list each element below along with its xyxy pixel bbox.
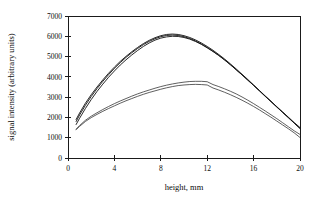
x-tick-label: 12 bbox=[203, 164, 211, 173]
chart-figure: 01000200030004000500060007000 048121620 … bbox=[0, 0, 321, 199]
y-axis-title: signal intensity (arbitrary units) bbox=[6, 33, 16, 141]
x-tick-label: 8 bbox=[159, 164, 163, 173]
line-chart: 01000200030004000500060007000 048121620 … bbox=[0, 0, 321, 199]
data-curves-group bbox=[76, 34, 300, 137]
data-curve-lower-curve-2 bbox=[76, 84, 300, 137]
y-axis-ticks: 01000200030004000500060007000 bbox=[47, 12, 71, 163]
x-tick-label: 20 bbox=[296, 164, 304, 173]
y-tick-label: 1000 bbox=[47, 133, 62, 142]
y-tick-label: 7000 bbox=[47, 12, 62, 21]
y-tick-label: 5000 bbox=[47, 52, 62, 61]
y-tick-label: 0 bbox=[58, 154, 62, 163]
x-tick-label: 0 bbox=[66, 164, 70, 173]
y-tick-label: 2000 bbox=[47, 113, 62, 122]
x-tick-label: 16 bbox=[250, 164, 258, 173]
y-tick-label: 3000 bbox=[47, 93, 62, 102]
y-tick-label: 6000 bbox=[47, 32, 62, 41]
y-tick-label: 4000 bbox=[47, 73, 62, 82]
x-axis-title: height, mm bbox=[165, 182, 204, 192]
x-tick-label: 4 bbox=[113, 164, 117, 173]
